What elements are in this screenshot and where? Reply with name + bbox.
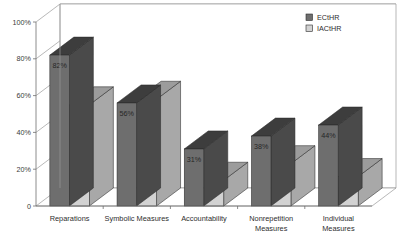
legend-label: IACtHR <box>317 24 341 33</box>
bar-value-label: 31% <box>187 155 202 164</box>
legend-item-iacthr[interactable]: IACtHR <box>306 24 341 33</box>
x-category-label: Measures <box>255 224 288 233</box>
bar-ecthr-4[interactable]: 44% <box>319 107 363 206</box>
x-category-label: Accountability <box>181 214 227 223</box>
chart-container: 020%40%60%80%100% 16%44%23%38%14%31%58%5… <box>0 0 400 239</box>
bar-side-face <box>69 37 93 206</box>
bar-value-label: 56% <box>120 109 135 118</box>
bar-front-face <box>50 55 70 206</box>
x-category-label: Individual <box>323 214 355 223</box>
x-category-label: Symbolic Measures <box>105 214 170 223</box>
y-tick-label: 40% <box>17 128 32 137</box>
y-tick-label: 80% <box>17 54 32 63</box>
bar-ecthr-0[interactable]: 82% <box>50 37 94 206</box>
legend-swatch <box>306 25 313 32</box>
bar-front-face <box>117 103 137 206</box>
bar-value-label: 38% <box>254 142 269 151</box>
bar-side-face <box>137 85 161 206</box>
x-category-label: Measures <box>322 224 355 233</box>
bar-ecthr-1[interactable]: 56% <box>117 85 161 206</box>
y-tick-label: 60% <box>17 91 32 100</box>
x-category-label: Nonrepetition <box>249 214 293 223</box>
bar-ecthr-3[interactable]: 38% <box>251 118 295 206</box>
y-tick-label: 20% <box>17 165 32 174</box>
x-category-label: Reparations <box>50 214 90 223</box>
bar-value-label: 44% <box>321 131 336 140</box>
bar-chart: 020%40%60%80%100% 16%44%23%38%14%31%58%5… <box>0 0 400 239</box>
y-tick-label: 100% <box>13 18 32 27</box>
legend-label: ECtHR <box>317 13 339 22</box>
legend-swatch <box>306 14 313 21</box>
y-tick-label: 0 <box>27 202 31 211</box>
legend-item-ecthr[interactable]: ECtHR <box>306 13 339 22</box>
